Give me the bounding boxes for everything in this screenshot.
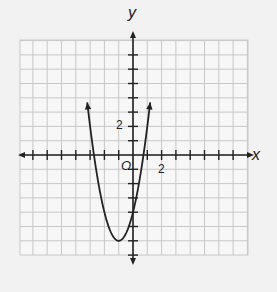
x-axis-label: x — [251, 146, 261, 163]
y-axis-label: y — [127, 4, 137, 21]
x-tick-label-2: 2 — [158, 162, 165, 176]
coordinate-plane: x y O 2 2 — [0, 0, 277, 292]
grid — [20, 40, 248, 255]
origin-label: O — [121, 158, 131, 173]
y-tick-label-2: 2 — [116, 118, 123, 132]
